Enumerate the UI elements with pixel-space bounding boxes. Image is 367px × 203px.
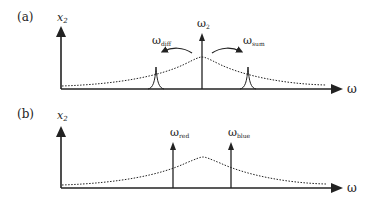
- x-axis-label-a: ω: [347, 82, 357, 96]
- omega-sum-label: ωsum: [243, 34, 265, 47]
- broad-resonance-curve-b: [62, 157, 326, 185]
- panel-a: (a) x2 ω ω2 ωdiff ωsum: [17, 10, 357, 96]
- panel-b-label: (b): [17, 107, 34, 121]
- y-axis-label-b: x2: [57, 109, 68, 123]
- y-axis-arrow-icon: [56, 126, 66, 137]
- omega-diff-label: ωdiff: [152, 34, 172, 47]
- arrow-head-icon: [228, 142, 234, 150]
- peak-sum: [240, 67, 256, 89]
- peak-diff: [148, 67, 164, 89]
- x-axis-label-b: ω: [347, 181, 357, 195]
- x-axis-arrow-icon: [331, 84, 343, 94]
- arrow-head-icon: [199, 33, 205, 41]
- x-axis-arrow-icon: [331, 183, 343, 193]
- y-axis-arrow-icon: [56, 26, 66, 37]
- curved-arrow-left-icon: [164, 48, 192, 53]
- omega-blue-label: ωblue: [228, 126, 251, 139]
- arrow-head-icon: [170, 142, 176, 150]
- omega-red-label: ωred: [170, 126, 189, 139]
- omega2-label: ω2: [197, 17, 210, 30]
- diagram-canvas: (a) x2 ω ω2 ωdiff ωsum (b) x2 ω: [0, 0, 367, 203]
- broad-resonance-curve: [62, 57, 326, 86]
- y-axis-label-a: x2: [57, 11, 68, 25]
- panel-a-label: (a): [17, 10, 34, 24]
- curved-arrow-right-icon: [212, 48, 240, 53]
- panel-b: (b) x2 ω ωred ωblue: [17, 107, 357, 195]
